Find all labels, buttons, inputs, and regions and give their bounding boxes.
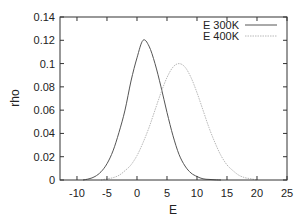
x-tick-label: 10: [191, 187, 203, 199]
y-tick-label: 0.12: [34, 34, 55, 46]
y-tick-label: 0.06: [34, 104, 55, 116]
y-tick-label: 0.04: [34, 127, 55, 139]
series-line-e-300k: [83, 40, 221, 180]
x-tick-label: 0: [134, 187, 140, 199]
legend: E 300K E 400K: [203, 19, 277, 42]
legend-label-400k: E 400K: [203, 30, 240, 42]
y-axis-title: rho: [8, 89, 22, 107]
x-tick-label: 5: [164, 187, 170, 199]
x-tick-label: -5: [102, 187, 112, 199]
y-tick-label: 0.14: [34, 11, 55, 23]
x-tick-label: 25: [281, 187, 293, 199]
y-tick-label: 0.08: [34, 81, 55, 93]
plot-frame: [60, 17, 287, 180]
y-tick-label: 0: [49, 174, 55, 186]
series-line-e-400k: [101, 64, 257, 180]
y-axis-ticks: 00.020.040.060.080.10.120.14: [34, 11, 287, 186]
x-axis-ticks: -10-50510152025: [69, 17, 293, 199]
x-axis-title: E: [169, 203, 177, 217]
curves: [83, 40, 257, 180]
density-chart: -10-50510152025 00.020.040.060.080.10.12…: [0, 0, 305, 223]
y-tick-label: 0.1: [40, 58, 55, 70]
y-tick-label: 0.02: [34, 151, 55, 163]
x-tick-label: -10: [69, 187, 85, 199]
x-tick-label: 20: [251, 187, 263, 199]
x-tick-label: 15: [221, 187, 233, 199]
